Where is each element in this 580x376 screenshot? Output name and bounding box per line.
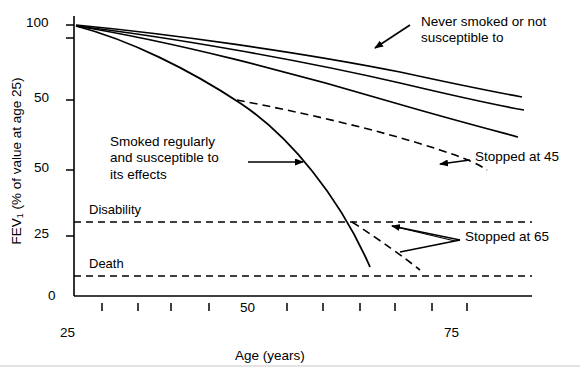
x-tick-label-75: 75 bbox=[444, 325, 459, 341]
y-axis-title: FEV1 (% of value at age 25) bbox=[9, 11, 31, 311]
y-tick-label-25: 25 bbox=[34, 226, 49, 242]
y-tick-label-75: 50 bbox=[34, 90, 49, 106]
x-axis-title: Age (years) bbox=[235, 348, 305, 364]
disability-label: Disability bbox=[89, 202, 141, 218]
threshold-lines bbox=[74, 222, 532, 276]
y-axis-title-prefix: FEV bbox=[9, 218, 24, 244]
arrow-stopped-at-65-third bbox=[392, 226, 455, 241]
x-tick-label-25: 25 bbox=[60, 325, 75, 341]
y-axis-title-subscript: 1 bbox=[15, 213, 25, 218]
lung-function-plot bbox=[0, 0, 580, 376]
annotation-smoked-regularly: Smoked regularly and susceptible to its … bbox=[110, 134, 219, 183]
x-axis-ticks bbox=[102, 303, 467, 311]
y-axis-title-suffix: (% of value at age 25) bbox=[9, 77, 24, 213]
curve-stopped-at-45 bbox=[237, 100, 487, 170]
annotation-stopped-at-45: Stopped at 45 bbox=[475, 149, 559, 165]
arrow-never-smoked bbox=[375, 25, 410, 48]
y-tick-label-0: 0 bbox=[48, 288, 56, 304]
death-label: Death bbox=[89, 256, 124, 272]
figure-canvas: FEV1 (% of value at age 25) 100 50 50 25… bbox=[0, 0, 580, 376]
arrow-stopped-at-45 bbox=[440, 160, 470, 164]
annotation-stopped-at-65: Stopped at 65 bbox=[465, 229, 549, 245]
y-tick-label-50: 50 bbox=[34, 160, 49, 176]
annotation-never-smoked: Never smoked or not susceptible to bbox=[421, 14, 546, 47]
arrow-stopped-at-65-second bbox=[400, 240, 460, 252]
x-tick-label-50: 50 bbox=[240, 300, 255, 316]
y-tick-label-100: 100 bbox=[26, 15, 49, 31]
y-axis-ticks bbox=[66, 25, 74, 236]
